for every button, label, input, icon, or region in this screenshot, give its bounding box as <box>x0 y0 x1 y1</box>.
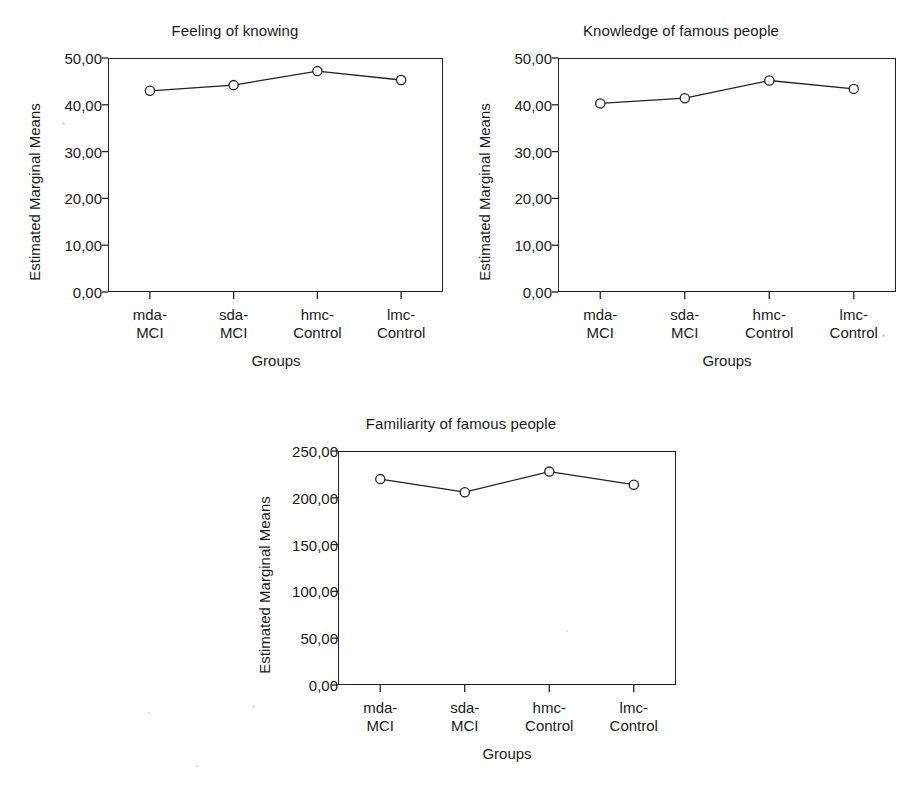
x-tick-label-line: MCI <box>133 324 167 342</box>
data-point-marker <box>765 76 774 85</box>
x-tick-label: lmc-Control <box>830 306 878 342</box>
x-tick-label: mda-MCI <box>363 699 397 735</box>
x-tick-label-line: MCI <box>670 324 699 342</box>
data-point-marker <box>680 94 689 103</box>
x-axis-label: Groups <box>482 745 531 762</box>
x-tick-label-line: hmc- <box>525 699 573 717</box>
data-point-marker <box>229 81 238 90</box>
data-point-marker <box>596 99 605 108</box>
x-tick-label-line: Control <box>745 324 793 342</box>
x-tick-label-line: sda- <box>219 306 248 324</box>
x-tick-label: mda-MCI <box>133 306 167 342</box>
chart-panel-knowledge-of-famous-people: Knowledge of famous people Estimated Mar… <box>450 22 912 392</box>
data-point-marker <box>545 467 554 476</box>
x-tick-label-line: mda- <box>363 699 397 717</box>
data-point-marker <box>629 480 638 489</box>
x-tick-label-line: Control <box>293 324 341 342</box>
data-point-marker <box>376 475 385 484</box>
x-tick-label-line: lmc- <box>610 699 658 717</box>
x-tick-label-line: lmc- <box>377 306 425 324</box>
x-tick-label-line: lmc- <box>830 306 878 324</box>
x-tick-label-line: Control <box>830 324 878 342</box>
x-tick-label: lmc-Control <box>610 699 658 735</box>
data-point-marker <box>460 488 469 497</box>
data-point-marker <box>145 86 154 95</box>
x-tick-label-line: MCI <box>363 717 397 735</box>
chart-panel-familiarity-of-famous-people: Familiarity of famous people Estimated M… <box>230 415 692 785</box>
series-line <box>380 472 634 493</box>
series-line <box>600 81 854 104</box>
x-tick-label-line: hmc- <box>745 306 793 324</box>
x-tick-label: hmc-Control <box>293 306 341 342</box>
x-tick-label-line: sda- <box>670 306 699 324</box>
x-tick-label: sda-MCI <box>219 306 248 342</box>
x-tick-label-line: MCI <box>450 717 479 735</box>
x-tick-label-line: mda- <box>583 306 617 324</box>
x-tick-label-line: Control <box>610 717 658 735</box>
x-axis-label: Groups <box>251 352 300 369</box>
data-point-marker <box>397 75 406 84</box>
x-tick-label-line: Control <box>525 717 573 735</box>
chart-panel-feeling-of-knowing: Feeling of knowing Estimated Marginal Me… <box>0 22 470 392</box>
x-tick-label-line: mda- <box>133 306 167 324</box>
scan-speckle <box>196 765 198 767</box>
x-tick-label-line: Control <box>377 324 425 342</box>
data-point-marker <box>849 84 858 93</box>
x-tick-label-line: sda- <box>450 699 479 717</box>
x-tick-label: lmc-Control <box>377 306 425 342</box>
x-tick-label: sda-MCI <box>670 306 699 342</box>
x-tick-label: hmc-Control <box>525 699 573 735</box>
x-tick-label-line: hmc- <box>293 306 341 324</box>
x-tick-label: sda-MCI <box>450 699 479 735</box>
x-tick-label: mda-MCI <box>583 306 617 342</box>
data-point-marker <box>313 67 322 76</box>
x-tick-label-line: MCI <box>583 324 617 342</box>
x-tick-label-line: MCI <box>219 324 248 342</box>
x-tick-label: hmc-Control <box>745 306 793 342</box>
series-line <box>150 71 401 91</box>
scan-speckle <box>148 712 150 714</box>
x-axis-label: Groups <box>702 352 751 369</box>
